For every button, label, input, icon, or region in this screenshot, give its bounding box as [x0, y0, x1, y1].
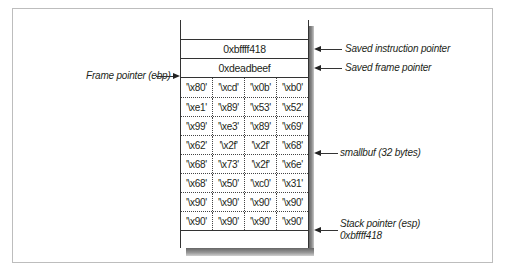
- buffer-byte: '\x68': [276, 136, 308, 154]
- buffer-byte: '\xc0': [244, 174, 276, 192]
- buffer-byte: '\x90': [181, 193, 212, 211]
- arrow-right-icon: [173, 73, 180, 79]
- arrow-line: [320, 230, 338, 231]
- saved-instruction-pointer-label: Saved instruction pointer: [345, 43, 450, 55]
- buffer-byte: '\x89': [212, 98, 244, 116]
- buffer-byte: '\x90': [181, 212, 212, 230]
- buffer-byte: '\x90': [244, 193, 276, 211]
- buffer-byte: '\x50': [212, 174, 244, 192]
- buffer-row: '\x68' '\x73' '\x2f' '\x6e': [181, 154, 308, 173]
- buffer-byte: '\x73': [212, 155, 244, 173]
- buffer-byte: '\xcd': [212, 78, 244, 97]
- arrow-line: [320, 49, 342, 50]
- buffer-row: '\x90' '\x90' '\x90' '\x90': [181, 211, 308, 230]
- saved-ebp-value: 0xdeadbeef: [219, 62, 271, 74]
- buffer-row: '\x62' '\x2f' '\x2f' '\x68': [181, 135, 308, 154]
- buffer-byte: '\x69': [276, 117, 308, 135]
- arrow-line: [156, 76, 174, 77]
- stack-diagram: 0xbffff418 0xdeadbeef '\x80' '\xcd' '\x0…: [180, 20, 309, 248]
- saved-eip-cell: 0xbffff418: [181, 39, 308, 58]
- buffer-byte: '\x62': [181, 136, 212, 154]
- buffer-byte: '\x2f': [244, 136, 276, 154]
- buffer-byte: '\x99': [181, 117, 212, 135]
- buffer-byte: '\x2f': [212, 136, 244, 154]
- buffer-byte: '\xe3': [212, 117, 244, 135]
- buffer-byte: '\x90': [212, 193, 244, 211]
- stack-pointer-value: 0xbffff418: [340, 230, 382, 242]
- buffer-byte: '\xb0': [276, 78, 308, 97]
- buffer-byte: '\x80': [181, 78, 212, 97]
- buffer-row: '\x90' '\x90' '\x90' '\x90': [181, 192, 308, 211]
- buffer-byte: '\xe1': [181, 98, 212, 116]
- buffer-row: '\x99' '\xe3' '\x89' '\x69': [181, 116, 308, 135]
- buffer-byte: '\x6e': [276, 155, 308, 173]
- arrow-line: [320, 153, 338, 154]
- buffer-byte: '\x52': [276, 98, 308, 116]
- buffer-byte: '\x90': [276, 212, 308, 230]
- buffer-byte: '\x90': [276, 193, 308, 211]
- smallbuf-label: smallbuf (32 bytes): [340, 147, 421, 159]
- buffer-row: '\xe1' '\x89' '\x53' '\x52': [181, 97, 308, 116]
- buffer-byte: '\x90': [212, 212, 244, 230]
- smallbuf-grid: '\x80' '\xcd' '\x0b' '\xb0' '\xe1' '\x89…: [181, 77, 308, 231]
- saved-frame-pointer-label: Saved frame pointer: [345, 62, 431, 74]
- buffer-byte: '\x53': [244, 98, 276, 116]
- stack-pointer-label: Stack pointer (esp): [340, 218, 420, 230]
- buffer-byte: '\x2f': [244, 155, 276, 173]
- saved-ebp-cell: 0xdeadbeef: [181, 58, 308, 77]
- buffer-byte: '\x0b': [244, 78, 276, 97]
- buffer-byte: '\x68': [181, 174, 212, 192]
- saved-eip-value: 0xbffff418: [223, 43, 266, 55]
- stack-shadow-bottom: [186, 248, 314, 256]
- buffer-byte: '\x89': [244, 117, 276, 135]
- buffer-byte: '\x68': [181, 155, 212, 173]
- arrow-line: [320, 68, 342, 69]
- buffer-byte: '\x90': [244, 212, 276, 230]
- buffer-row: '\x68' '\x50' '\xc0' '\x31': [181, 173, 308, 192]
- buffer-row: '\x80' '\xcd' '\x0b' '\xb0': [181, 78, 308, 97]
- buffer-byte: '\x31': [276, 174, 308, 192]
